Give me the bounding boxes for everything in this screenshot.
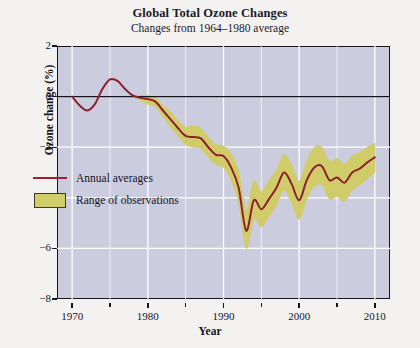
chart-legend: Annual averages Range of observations — [30, 167, 179, 211]
x-tick-label: 1970 — [50, 310, 94, 322]
y-tick-mark — [52, 147, 57, 148]
x-tick-mark — [147, 303, 148, 308]
x-minor-tick-mark — [185, 303, 186, 307]
legend-swatch-key — [30, 193, 70, 208]
chart-title: Global Total Ozone Changes — [0, 6, 420, 21]
y-tick-mark — [52, 45, 57, 46]
y-tick-mark — [52, 298, 57, 299]
legend-label: Annual averages — [70, 172, 153, 184]
x-tick-label: 2000 — [277, 310, 321, 322]
y-tick-mark — [52, 96, 57, 97]
x-tick-label: 1980 — [126, 310, 170, 322]
x-tick-mark — [298, 303, 299, 308]
x-axis-ticks: 19701980199020002010 — [57, 303, 390, 323]
x-tick-label: 2010 — [353, 310, 397, 322]
legend-label: Range of observations — [70, 194, 179, 206]
x-tick-mark — [223, 303, 224, 308]
y-tick-label: −8 — [21, 293, 51, 304]
ozone-chart-figure: Global Total Ozone Changes Changes from … — [0, 0, 420, 348]
chart-subtitle: Changes from 1964–1980 average — [0, 22, 420, 34]
x-tick-mark — [71, 303, 72, 308]
x-tick-mark — [374, 303, 375, 308]
y-tick-label: 0 — [21, 91, 51, 102]
x-axis-label: Year — [0, 325, 420, 337]
y-tick-label: 2 — [21, 40, 51, 51]
y-tick-label: −6 — [21, 242, 51, 253]
x-minor-tick-mark — [336, 303, 337, 307]
y-tick-label: −2 — [21, 141, 51, 152]
legend-line-key — [30, 177, 70, 179]
x-minor-tick-mark — [261, 303, 262, 307]
legend-item-annual-averages: Annual averages — [30, 167, 179, 189]
x-tick-label: 1990 — [202, 310, 246, 322]
legend-item-range-of-observations: Range of observations — [30, 189, 179, 211]
x-minor-tick-mark — [109, 303, 110, 307]
y-tick-mark — [52, 248, 57, 249]
